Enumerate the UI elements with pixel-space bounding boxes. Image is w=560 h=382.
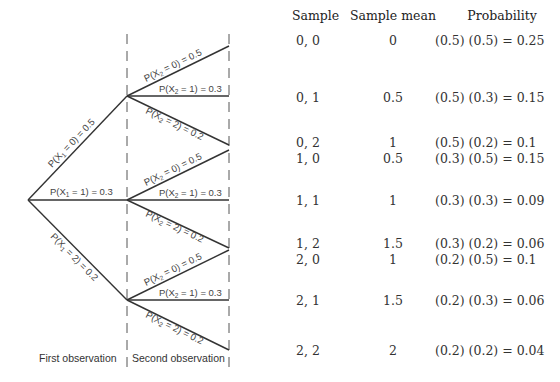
sample-cell: 0, 1	[296, 90, 320, 105]
prob-cell: (0.5) (0.3) = 0.15	[435, 90, 545, 105]
mean-cell: 1	[373, 135, 413, 150]
sample-cell: 1, 0	[296, 151, 320, 166]
mean-cell: 2	[373, 343, 413, 358]
mean-cell: 1.5	[373, 293, 413, 308]
prob-cell: (0.2) (0.5) = 0.1	[435, 252, 537, 267]
sample-cell: 2, 1	[296, 293, 320, 308]
sample-cell: 2, 0	[296, 252, 320, 267]
results-table: 0, 0 0 (0.5) (0.5) = 0.25 0, 1 0.5 (0.5)…	[0, 0, 560, 382]
mean-cell: 1	[373, 252, 413, 267]
mean-cell: 1.5	[373, 236, 413, 251]
prob-cell: (0.5) (0.5) = 0.25	[435, 33, 545, 48]
prob-cell: (0.3) (0.2) = 0.06	[435, 236, 545, 251]
prob-cell: (0.2) (0.2) = 0.04	[435, 343, 545, 358]
mean-cell: 0	[373, 33, 413, 48]
sample-cell: 1, 1	[296, 193, 320, 208]
mean-cell: 0.5	[373, 90, 413, 105]
prob-cell: (0.2) (0.3) = 0.06	[435, 293, 545, 308]
prob-cell: (0.3) (0.5) = 0.15	[435, 151, 545, 166]
mean-cell: 1	[373, 193, 413, 208]
sample-cell: 1, 2	[296, 236, 320, 251]
sample-cell: 0, 0	[296, 33, 320, 48]
mean-cell: 0.5	[373, 151, 413, 166]
prob-cell: (0.3) (0.3) = 0.09	[435, 193, 545, 208]
sample-cell: 2, 2	[296, 343, 320, 358]
prob-cell: (0.5) (0.2) = 0.1	[435, 135, 537, 150]
sample-cell: 0, 2	[296, 135, 320, 150]
